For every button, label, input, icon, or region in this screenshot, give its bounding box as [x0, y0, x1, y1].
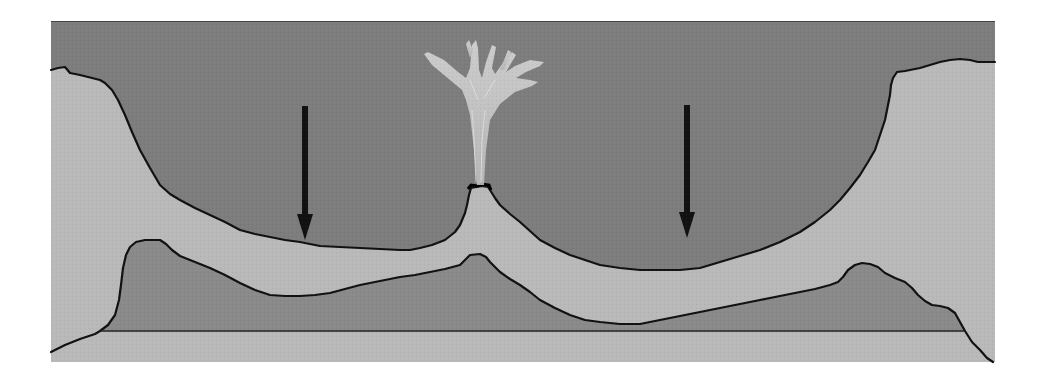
diagram-canvas	[0, 0, 1041, 377]
texture-overlay	[51, 21, 995, 362]
seafloor-cross-section-diagram	[0, 0, 1041, 377]
